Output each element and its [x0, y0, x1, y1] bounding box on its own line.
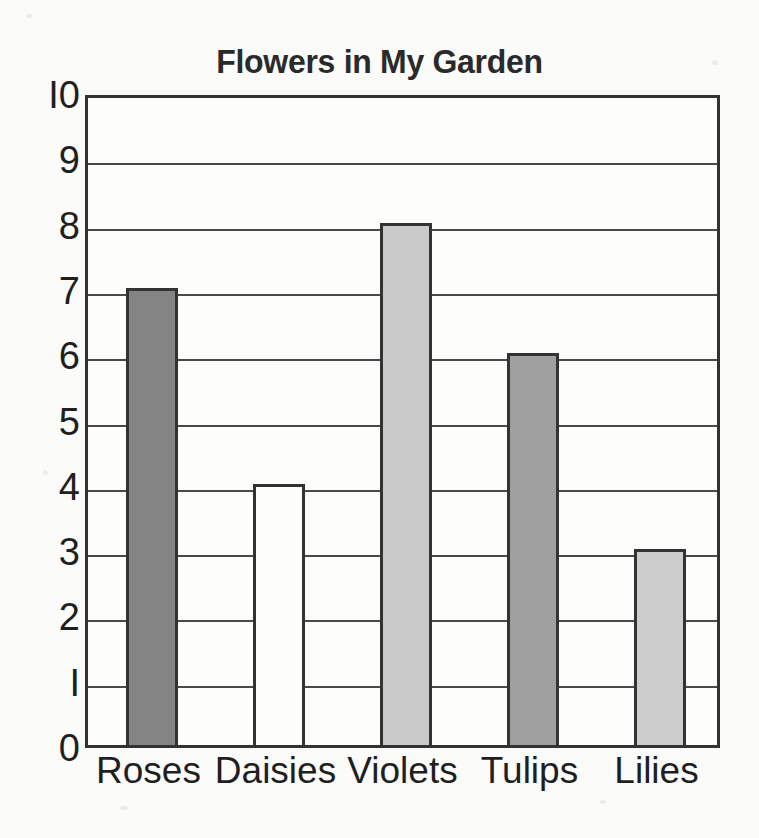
x-axis-category-label: Roses [85, 752, 212, 789]
y-axis-tick-label: I0 [10, 76, 80, 114]
y-axis: 0I23456789I0 [0, 0, 80, 838]
x-axis-category-label: Tulips [466, 752, 593, 789]
y-axis-tick-label: 6 [10, 337, 80, 375]
bar [507, 353, 559, 745]
scan-speck [120, 806, 128, 810]
y-axis-tick-label: 8 [10, 207, 80, 245]
bar [253, 484, 305, 745]
y-axis-tick-label: 5 [10, 403, 80, 441]
scan-speck [712, 60, 718, 65]
chart-title: Flowers in My Garden [23, 42, 736, 81]
y-axis-tick-label: 7 [10, 272, 80, 310]
scan-speck [26, 14, 33, 18]
scan-speck [43, 470, 48, 475]
plot-area [85, 95, 720, 748]
y-axis-tick-label: 2 [10, 598, 80, 636]
x-axis-category-label: Lilies [593, 752, 720, 789]
y-axis-tick-label: 9 [10, 141, 80, 179]
bar [380, 223, 432, 745]
x-axis-category-label: Violets [339, 752, 466, 789]
scan-speck [600, 800, 606, 804]
chart-page: Flowers in My Garden 0I23456789I0 RosesD… [0, 0, 759, 838]
bar [634, 549, 686, 745]
y-axis-tick-label: I [10, 664, 80, 702]
y-axis-tick-label: 0 [10, 729, 80, 767]
bar [126, 288, 178, 745]
x-axis-category-label: Daisies [212, 752, 339, 789]
bar-series [88, 98, 717, 745]
y-axis-tick-label: 3 [10, 533, 80, 571]
